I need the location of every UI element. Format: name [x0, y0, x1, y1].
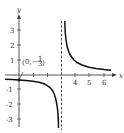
- y-tick-label: -1: [6, 86, 13, 94]
- svg-text:): ): [42, 59, 45, 67]
- x-tick-label: 6: [102, 79, 107, 87]
- x-axis-arrow-icon: [112, 73, 117, 77]
- right-branch-curve: [65, 21, 111, 70]
- y-axis-label: y: [16, 6, 22, 14]
- annotation-leader: [20, 72, 24, 79]
- intercept-point: [18, 79, 21, 82]
- y-tick-label: -3: [6, 116, 13, 124]
- function-graph: 3 2 1 -1 -2 -3 4 5 6 x y ( 0, − 1 3 ): [0, 0, 124, 133]
- y-tick-label: 1: [10, 57, 14, 65]
- axes: [5, 17, 115, 127]
- y-axis-arrow-icon: [17, 14, 21, 19]
- point-annotation: ( 0, − 1 3 ): [22, 55, 45, 69]
- y-tick-label: 2: [10, 42, 14, 50]
- x-tick-label: 5: [87, 79, 91, 87]
- svg-text:0,: 0,: [25, 58, 32, 66]
- x-axis-label: x: [119, 72, 123, 80]
- ticks: [17, 30, 104, 119]
- x-tick-label: 4: [73, 79, 78, 87]
- y-tick-label: -2: [6, 101, 13, 109]
- y-tick-label: 3: [10, 27, 14, 35]
- left-branch-curve: [5, 79, 59, 128]
